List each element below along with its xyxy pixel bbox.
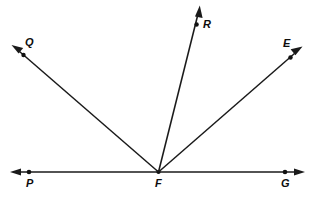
ray-FQ-group bbox=[12, 45, 159, 172]
ray-FQ-segment bbox=[20, 52, 159, 173]
point-dot-G bbox=[283, 170, 288, 175]
ray-FE-group bbox=[159, 47, 303, 173]
label-F: F bbox=[155, 178, 162, 189]
point-dot-Q bbox=[21, 53, 25, 57]
point-dot-R bbox=[194, 22, 198, 26]
arrow-head-right-G bbox=[294, 168, 305, 175]
point-dot-E bbox=[288, 55, 292, 59]
arrow-head-Q bbox=[12, 45, 24, 53]
arrow-head-left-P bbox=[10, 168, 21, 175]
figure-canvas bbox=[0, 0, 313, 198]
ray-FR-segment bbox=[159, 16, 198, 172]
label-E: E bbox=[283, 38, 290, 49]
arrow-head-R bbox=[195, 6, 203, 19]
label-Q: Q bbox=[25, 37, 34, 48]
label-R: R bbox=[203, 19, 211, 30]
point-dot-P bbox=[27, 170, 32, 175]
arrow-head-E bbox=[291, 47, 303, 56]
geometry-figure: P F G Q R E bbox=[0, 0, 313, 198]
label-P: P bbox=[26, 178, 33, 189]
ray-FE-segment bbox=[159, 54, 295, 173]
ray-FR-group bbox=[159, 6, 203, 173]
label-G: G bbox=[281, 178, 290, 189]
